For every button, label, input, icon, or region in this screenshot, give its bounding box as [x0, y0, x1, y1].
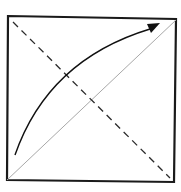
origami-diagram: [0, 0, 181, 192]
